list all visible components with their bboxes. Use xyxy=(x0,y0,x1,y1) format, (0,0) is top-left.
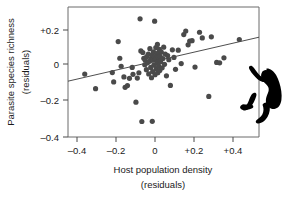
x-tick-label-3: +0.2 xyxy=(185,145,204,156)
y-tick-label-0: +0.2 xyxy=(40,25,59,36)
x-tick-label-4: +0.4 xyxy=(224,145,243,156)
data-point xyxy=(161,45,166,50)
data-point xyxy=(150,119,155,124)
y-axis-tick-labels: +0.2 0 –0.2 –0.4 xyxy=(40,25,59,143)
data-point xyxy=(197,30,202,35)
x-tick-label-2: 0 xyxy=(152,145,157,156)
data-point xyxy=(133,100,138,105)
data-point xyxy=(111,79,116,84)
data-point xyxy=(179,61,184,66)
data-point xyxy=(125,83,130,88)
y-axis-title-line1: Parasite species richness xyxy=(5,18,16,126)
data-point xyxy=(166,57,171,62)
data-point xyxy=(155,42,160,47)
data-point xyxy=(152,19,157,24)
y-axis-title: Parasite species richness (residuals) xyxy=(5,18,31,126)
y-tick-label-1: 0 xyxy=(54,59,59,70)
data-point xyxy=(221,55,226,60)
data-point xyxy=(116,39,121,44)
x-axis-title-line1: Host population density xyxy=(114,164,213,175)
y-axis-ticks xyxy=(63,30,68,137)
data-point xyxy=(160,56,165,61)
x-axis-ticks xyxy=(77,137,233,142)
data-point xyxy=(217,60,222,65)
data-point xyxy=(93,86,98,91)
data-point xyxy=(117,56,122,61)
data-point xyxy=(176,48,181,53)
x-axis-tick-labels: –0.4 –0.2 0 +0.2 +0.4 xyxy=(68,145,243,156)
scatter-chart-figure: –0.4 –0.2 0 +0.2 +0.4 +0.2 0 –0.2 –0.4 H… xyxy=(0,0,286,198)
data-point xyxy=(127,76,132,81)
data-point xyxy=(139,119,144,124)
data-point xyxy=(130,72,135,77)
data-point xyxy=(130,65,135,70)
data-point xyxy=(119,64,124,69)
x-axis-title: Host population density (residuals) xyxy=(114,164,213,190)
data-point xyxy=(164,73,169,78)
data-point xyxy=(189,38,194,43)
data-point xyxy=(183,28,188,33)
x-tick-label-0: –0.4 xyxy=(68,145,87,156)
data-point xyxy=(173,67,178,72)
climbing-primate-silhouette xyxy=(240,66,282,124)
data-point xyxy=(82,72,87,77)
data-point xyxy=(110,70,115,75)
data-points-group xyxy=(82,16,242,124)
data-point xyxy=(137,16,142,21)
data-point xyxy=(168,83,173,88)
chart-svg: –0.4 –0.2 0 +0.2 +0.4 +0.2 0 –0.2 –0.4 H… xyxy=(0,0,286,198)
data-point xyxy=(209,34,214,39)
data-point xyxy=(136,70,141,75)
y-tick-label-2: –0.2 xyxy=(41,95,60,106)
data-point xyxy=(121,74,126,79)
y-tick-label-3: –0.4 xyxy=(41,132,60,143)
data-point xyxy=(135,76,140,81)
data-point xyxy=(200,35,205,40)
data-point xyxy=(170,47,175,52)
x-axis-title-line2: (residuals) xyxy=(141,179,185,190)
plot-frame xyxy=(68,7,259,137)
y-axis-title-line2: (residuals) xyxy=(20,50,31,94)
data-point xyxy=(171,55,176,60)
data-point xyxy=(237,37,242,42)
data-point xyxy=(162,62,167,67)
data-point xyxy=(206,94,211,99)
data-point xyxy=(192,64,197,69)
data-point xyxy=(140,50,145,55)
x-tick-label-1: –0.2 xyxy=(107,145,126,156)
